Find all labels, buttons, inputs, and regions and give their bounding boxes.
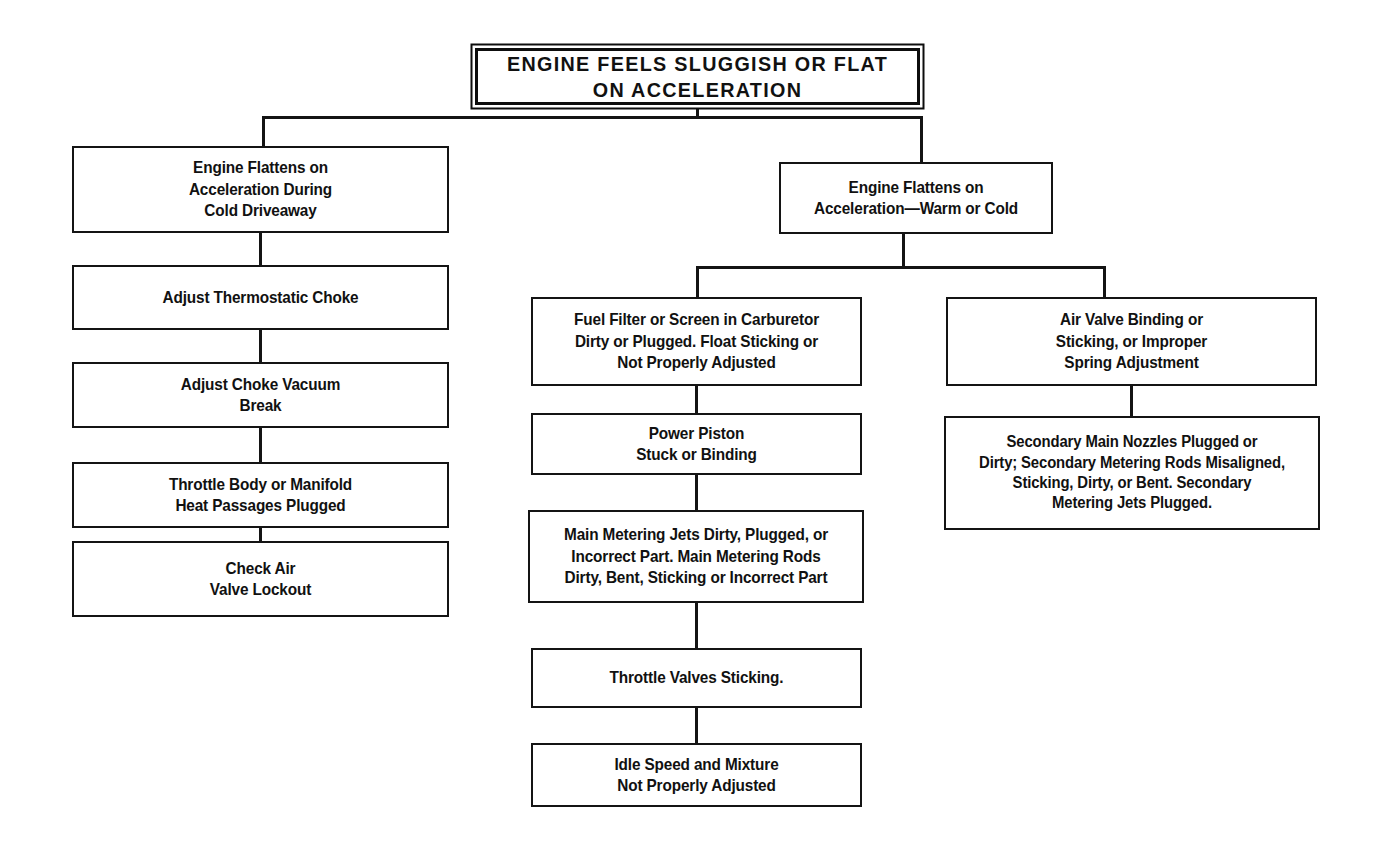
node-middle-step-1: Fuel Filter or Screen in Carburetor Dirt… [531,297,862,386]
node-middle-step-5: Idle Speed and Mixture Not Properly Adju… [531,743,862,807]
connector-main-bus [262,116,923,119]
connector-middle-4 [695,708,698,743]
node-left-step-1: Adjust Thermostatic Choke [72,265,449,330]
node-far-right-step-2: Secondary Main Nozzles Plugged or Dirty;… [944,416,1320,530]
connector-middle-column-drop [696,266,699,297]
node-left-step-4: Check Air Valve Lockout [72,541,449,617]
flowchart-canvas: ENGINE FEELS SLUGGISH OR FLAT ON ACCELER… [0,0,1386,849]
node-middle-step-4-label: Throttle Valves Sticking. [544,667,848,688]
node-far-right-step-1: Air Valve Binding or Sticking, or Improp… [946,297,1317,386]
node-middle-step-3-label: Main Metering Jets Dirty, Plugged, or In… [542,524,851,588]
connector-middle-2 [695,475,698,510]
connector-far-right-1 [1130,386,1133,416]
node-root-label: ENGINE FEELS SLUGGISH OR FLAT ON ACCELER… [491,51,904,101]
node-far-right-step-2-label: Secondary Main Nozzles Plugged or Dirty;… [959,432,1305,514]
node-right-branch-head-label: Engine Flattens on Acceleration—Warm or … [790,177,1041,220]
node-left-branch-head-label: Engine Flattens on Acceleration During C… [87,157,434,221]
node-middle-step-1-label: Fuel Filter or Screen in Carburetor Dirt… [544,309,848,373]
connector-secondary-bus [696,266,1106,269]
connector-right-head-stub [902,234,905,268]
connector-middle-1 [695,386,698,413]
connector-middle-3 [695,603,698,648]
connector-left-branch-drop [262,116,265,148]
node-left-step-2: Adjust Choke Vacuum Break [72,362,449,428]
node-root-engine-sluggish: ENGINE FEELS SLUGGISH OR FLAT ON ACCELER… [475,48,920,105]
node-right-branch-head: Engine Flattens on Acceleration—Warm or … [779,162,1053,234]
connector-far-right-column-drop [1103,266,1106,297]
node-left-step-3: Throttle Body or Manifold Heat Passages … [72,462,449,528]
node-left-step-3-label: Throttle Body or Manifold Heat Passages … [87,474,434,517]
node-middle-step-4: Throttle Valves Sticking. [531,648,862,708]
connector-left-3 [259,428,262,462]
node-far-right-step-1-label: Air Valve Binding or Sticking, or Improp… [961,309,1302,373]
node-middle-step-2-label: Power Piston Stuck or Binding [544,423,848,466]
connector-left-1 [259,233,262,265]
connector-left-4 [259,528,262,541]
node-middle-step-3: Main Metering Jets Dirty, Plugged, or In… [528,510,864,603]
connector-right-branch-drop [920,116,923,162]
node-left-branch-head: Engine Flattens on Acceleration During C… [72,146,449,233]
node-left-step-2-label: Adjust Choke Vacuum Break [87,374,434,417]
node-middle-step-2: Power Piston Stuck or Binding [531,413,862,475]
connector-left-2 [259,330,262,362]
node-left-step-1-label: Adjust Thermostatic Choke [87,287,434,308]
node-middle-step-5-label: Idle Speed and Mixture Not Properly Adju… [544,754,848,797]
node-left-step-4-label: Check Air Valve Lockout [87,558,434,601]
